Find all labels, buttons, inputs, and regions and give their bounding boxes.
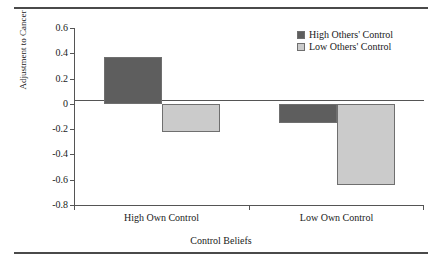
x-axis-tick-right	[423, 205, 424, 210]
bar	[104, 57, 162, 104]
legend-item: High Others' Control	[297, 30, 393, 40]
y-tick-label: -0.2	[52, 124, 68, 134]
category-label: High Own Control	[102, 213, 222, 223]
legend-swatch-icon	[297, 43, 305, 51]
bar	[279, 104, 337, 123]
x-axis-tick-center	[249, 205, 250, 210]
chart-legend: High Others' ControlLow Others' Control	[297, 30, 393, 54]
y-axis-line	[74, 28, 75, 205]
y-tick-label: 0.6	[56, 23, 69, 33]
y-tick-label: 0.4	[56, 48, 69, 58]
y-tick-mark	[70, 104, 74, 105]
bar	[337, 104, 395, 185]
y-axis-title-label: Adjustment to Cancer	[19, 11, 28, 90]
y-tick-mark	[70, 79, 74, 80]
x-axis-tick-left	[74, 205, 75, 210]
category-label: Low Own Control	[277, 213, 397, 223]
y-tick-mark	[70, 154, 74, 155]
y-tick-label: -0.4	[52, 149, 68, 159]
y-tick-label: 0	[63, 99, 68, 109]
y-tick-mark	[70, 53, 74, 54]
legend-item: Low Others' Control	[297, 42, 393, 52]
legend-swatch-icon	[297, 31, 305, 39]
y-tick-mark	[70, 205, 74, 206]
y-tick-mark	[70, 180, 74, 181]
bottom-horizontal-rule	[14, 252, 428, 254]
y-tick-mark	[70, 129, 74, 130]
x-axis-title: Control Beliefs	[0, 236, 442, 246]
legend-label: High Others' Control	[309, 30, 393, 40]
x-axis-title-label: Control Beliefs	[190, 235, 251, 246]
y-tick-label: -0.8	[52, 200, 68, 210]
y-tick-label: -0.6	[52, 175, 68, 185]
plot-area: 0.60.40.20-0.2-0.4-0.6-0.8	[74, 28, 424, 205]
legend-label: Low Others' Control	[309, 42, 391, 52]
bar	[162, 104, 220, 132]
y-tick-mark	[70, 28, 74, 29]
top-horizontal-rule	[14, 7, 428, 9]
figure-container: Adjustment to Cancer 0.60.40.20-0.2-0.4-…	[0, 0, 442, 266]
y-tick-label: 0.2	[56, 74, 69, 84]
